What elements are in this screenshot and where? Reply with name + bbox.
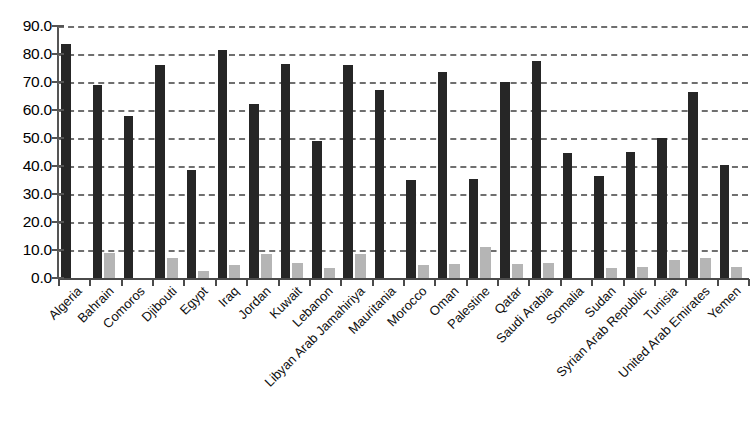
y-axis-tick-mark xyxy=(52,249,64,251)
y-axis-tick-label: 30.0 xyxy=(23,186,52,202)
x-axis-tick-mark xyxy=(183,279,185,286)
bar-group xyxy=(249,26,280,278)
x-axis-tick-mark xyxy=(246,279,248,286)
y-axis-tick-mark xyxy=(52,25,64,27)
x-axis-tick-mark xyxy=(309,279,311,286)
x-axis-tick-mark xyxy=(403,279,405,286)
bar-group xyxy=(343,26,374,278)
bar-primary xyxy=(532,61,542,278)
y-axis-tick-label: 60.0 xyxy=(23,102,52,118)
bar-group xyxy=(155,26,186,278)
bar-group xyxy=(218,26,249,278)
y-axis-tick-label: 10.0 xyxy=(23,242,52,258)
x-axis-tick-mark xyxy=(560,279,562,286)
y-axis-tick-mark xyxy=(52,221,64,223)
y-axis-tick-label: 90.0 xyxy=(23,18,52,34)
y-axis-tick-label: 0.0 xyxy=(31,270,52,286)
y-axis-tick-label: 20.0 xyxy=(23,214,52,230)
bar-group xyxy=(438,26,469,278)
bar-primary xyxy=(281,64,291,278)
y-axis-tick-label: 80.0 xyxy=(23,46,52,62)
y-axis-tick-mark xyxy=(52,193,64,195)
bar-secondary xyxy=(261,254,272,278)
x-axis-tick-mark xyxy=(89,279,91,286)
bar-group xyxy=(187,26,218,278)
bar-group xyxy=(469,26,500,278)
x-axis-tick-mark xyxy=(152,279,154,286)
bar-primary xyxy=(249,104,259,278)
y-axis-tick-label: 40.0 xyxy=(23,158,52,174)
y-axis-tick-mark xyxy=(52,165,64,167)
x-axis-tick-mark xyxy=(623,279,625,286)
bar-chart: 90.080.070.060.050.040.030.020.010.00.0 … xyxy=(0,0,754,433)
y-axis-tick-mark xyxy=(52,137,64,139)
y-axis-tick-label: 50.0 xyxy=(23,130,52,146)
bar-group xyxy=(281,26,312,278)
x-axis-tick-mark xyxy=(121,279,123,286)
x-axis-tick-mark xyxy=(340,279,342,286)
x-axis-tick-mark xyxy=(215,279,217,286)
bar-group xyxy=(500,26,531,278)
x-axis-tick-mark xyxy=(654,279,656,286)
x-axis-tick-mark xyxy=(434,279,436,286)
x-axis-tick-mark xyxy=(591,279,593,286)
x-axis-tick-labels: AlgeriaBahrainComorosDjiboutiEgyptIraqJo… xyxy=(58,282,749,432)
bar-group xyxy=(93,26,124,278)
bar-group xyxy=(312,26,343,278)
bar-primary xyxy=(500,82,510,278)
y-axis-tick-mark xyxy=(52,81,64,83)
x-axis-tick-mark xyxy=(717,279,719,286)
y-axis-tick-label: 70.0 xyxy=(23,74,52,90)
bar-primary xyxy=(375,90,385,278)
bar-group xyxy=(61,26,92,278)
x-axis-tick-mark xyxy=(748,279,750,286)
y-axis-tick-mark xyxy=(52,109,64,111)
x-axis-tick-mark xyxy=(278,279,280,286)
bar-primary xyxy=(61,44,71,278)
bar-primary xyxy=(218,50,228,278)
x-axis-tick-mark xyxy=(685,279,687,286)
bar-primary xyxy=(124,116,134,278)
x-axis-tick-mark xyxy=(528,279,530,286)
x-axis-tick-mark xyxy=(497,279,499,286)
bar-group xyxy=(532,26,563,278)
bar-group xyxy=(124,26,155,278)
y-axis-tick-mark xyxy=(52,53,64,55)
bar-primary xyxy=(155,65,165,278)
x-axis-tick-mark xyxy=(466,279,468,286)
bar-primary xyxy=(93,85,103,278)
bar-primary xyxy=(343,65,353,278)
y-axis-tick-labels: 90.080.070.060.050.040.030.020.010.00.0 xyxy=(0,0,56,300)
x-axis-tick-mark xyxy=(372,279,374,286)
bar-group xyxy=(626,26,657,278)
x-axis-tick-mark xyxy=(58,279,60,286)
